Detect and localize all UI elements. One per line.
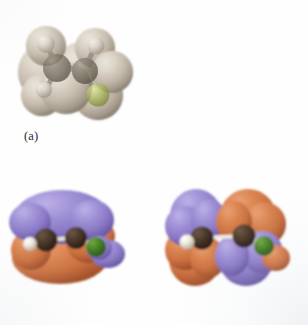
panel-c-homo-orbital: (c)	[0, 162, 154, 325]
surface-gloss	[18, 26, 133, 120]
homo-upper-lobe-purple	[9, 190, 114, 244]
panel-a-space-filling-model: (a)	[0, 0, 154, 162]
lumo-svg	[154, 162, 308, 325]
panel-d-artwork	[154, 162, 308, 325]
panel-label-a: (a)	[24, 129, 38, 144]
panel-b-electrostatic-potential-map: (b)	[154, 0, 308, 162]
panel-c-artwork	[0, 162, 154, 325]
homo-svg	[0, 162, 154, 325]
panel-b-artwork	[154, 0, 308, 162]
esp-surface	[154, 0, 308, 162]
figure-root: (a)	[0, 0, 308, 325]
panel-d-lumo-orbital: (d)	[154, 162, 308, 325]
esp-svg	[154, 0, 308, 162]
